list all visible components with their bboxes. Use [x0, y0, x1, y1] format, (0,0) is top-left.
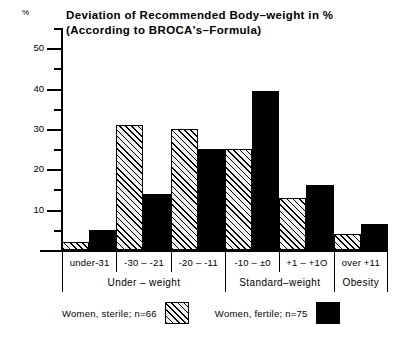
- group-label-row: Under – weightStandard–weightObesity: [62, 272, 388, 292]
- y-tick-minor-35: [54, 109, 62, 111]
- y-tick-minor-55: [54, 28, 62, 30]
- bar-fertile-4: [252, 91, 279, 250]
- y-tick-label-20: 20: [18, 164, 44, 173]
- group-label-3: Obesity: [334, 272, 388, 292]
- bar-group-2: [116, 28, 170, 250]
- bar-fertile-6: [361, 224, 388, 250]
- bar-sterile-1: [62, 242, 89, 250]
- bar-fertile-3: [198, 149, 225, 250]
- group-label-2: Standard–weight: [225, 272, 334, 292]
- category-label-5: +1 – +1O: [279, 252, 333, 272]
- bar-sterile-2: [116, 125, 143, 250]
- y-tick-label-30: 30: [18, 124, 44, 133]
- y-tick-major-30: [47, 129, 62, 131]
- bar-fertile-2: [143, 194, 170, 251]
- legend-entry-fertile: Women, fertile; n=75: [215, 302, 340, 324]
- plot-area: [62, 28, 388, 250]
- y-tick-label-50: 50: [18, 43, 44, 52]
- chart-legend: Women, sterile; n=66 Women, fertile; n=7…: [62, 300, 392, 326]
- y-tick-minor-5: [54, 230, 62, 232]
- bar-chart: Deviation of Recommended Body–weight in …: [0, 0, 398, 338]
- bar-group-6: [334, 28, 388, 250]
- y-tick-label-40: 40: [18, 84, 44, 93]
- legend-entry-sterile: Women, sterile; n=66: [62, 302, 189, 324]
- y-tick-major-50: [47, 48, 62, 50]
- legend-label-sterile: Women, sterile; n=66: [62, 308, 157, 319]
- bar-sterile-4: [225, 149, 252, 250]
- bar-series-layer: [62, 28, 388, 250]
- bar-sterile-6: [334, 234, 361, 250]
- category-label-1: under-31: [62, 252, 116, 272]
- legend-label-fertile: Women, fertile; n=75: [215, 308, 308, 319]
- y-tick-major-40: [47, 89, 62, 91]
- y-tick-label-text: 40: [18, 84, 44, 93]
- bar-sterile-3: [171, 129, 198, 250]
- y-tick-label-text: 50: [18, 43, 44, 52]
- y-tick-major-20: [47, 169, 62, 171]
- chart-title: Deviation of Recommended Body–weight in …: [66, 8, 388, 23]
- group-label-1: Under – weight: [62, 272, 225, 292]
- y-tick-major-10: [47, 210, 62, 212]
- category-label-3: -20 – -11: [171, 252, 225, 272]
- legend-spacer: [189, 313, 215, 314]
- y-tick-minor-25: [54, 149, 62, 151]
- bar-sterile-5: [279, 198, 306, 250]
- category-label-2: -30 – -21: [116, 252, 170, 272]
- category-label-row: under-31-30 – -21-20 – -11-10 – ±0+1 – +…: [62, 252, 388, 272]
- legend-swatch-hatched-icon: [165, 302, 189, 324]
- y-tick-minor-45: [54, 68, 62, 70]
- bar-group-3: [171, 28, 225, 250]
- y-tick-label-10: 10: [18, 205, 44, 214]
- category-label-4: -10 – ±0: [225, 252, 279, 272]
- y-tick-label-text: 30: [18, 124, 44, 133]
- bar-fertile-1: [89, 230, 116, 250]
- legend-swatch-solid-icon: [316, 302, 340, 324]
- y-tick-minor-15: [54, 189, 62, 191]
- bar-group-5: [279, 28, 333, 250]
- y-tick-label-text: 20: [18, 164, 44, 173]
- bar-group-1: [62, 28, 116, 250]
- bar-group-4: [225, 28, 279, 250]
- bar-fertile-5: [306, 185, 333, 250]
- y-tick-label-text: 10: [18, 205, 44, 214]
- y-axis-unit-label: %: [22, 8, 29, 17]
- category-label-6: over +11: [334, 252, 388, 272]
